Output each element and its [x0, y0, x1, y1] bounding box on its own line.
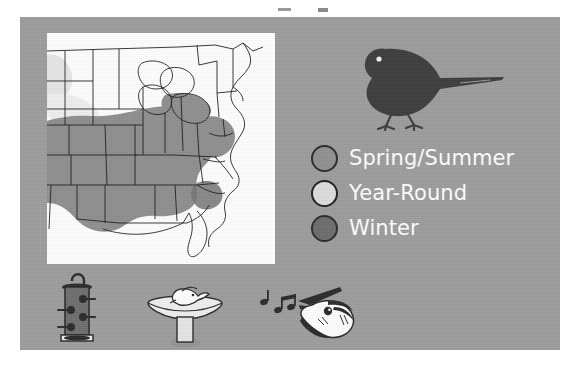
cropped-title-remnant [0, 0, 580, 6]
legend-item-spring-summer[interactable]: Spring/Summer [311, 141, 551, 176]
singing-bird-head-icon [258, 285, 358, 343]
legend-label-spring-summer: Spring/Summer [349, 148, 514, 169]
legend-swatch-spring-summer [311, 145, 338, 172]
figure-panel: Spring/Summer Year-Round Winter [20, 17, 560, 350]
music-notes-icon [259, 290, 296, 314]
map-legend: Spring/Summer Year-Round Winter [311, 141, 551, 246]
bird-head-shape [298, 287, 354, 338]
legend-label-year-round: Year-Round [349, 183, 467, 204]
range-map [47, 33, 275, 264]
legend-item-winter[interactable]: Winter [311, 211, 551, 246]
icon-strip [36, 265, 356, 347]
legend-item-year-round[interactable]: Year-Round [311, 176, 551, 211]
tube-bird-feeder-icon [50, 269, 104, 347]
bird-body-shape [365, 48, 504, 130]
range-map-svg [47, 33, 275, 264]
legend-swatch-winter [311, 215, 338, 242]
legend-label-winter: Winter [349, 218, 419, 239]
bird-eye [376, 56, 381, 61]
bird-bath-icon [140, 285, 230, 347]
legend-swatch-year-round [311, 180, 338, 207]
bird-silhouette [352, 33, 512, 131]
